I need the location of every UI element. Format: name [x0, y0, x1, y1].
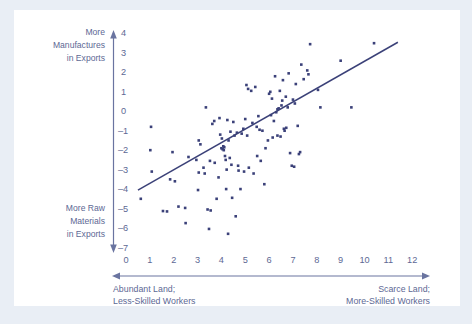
- data-point: [293, 165, 296, 168]
- data-point: [264, 147, 267, 150]
- caption-left: Abundant Land; Less-Skilled Workers: [113, 284, 196, 306]
- data-point: [228, 157, 231, 160]
- data-point: [184, 222, 187, 225]
- y-tick: 3: [121, 48, 126, 58]
- data-point: [217, 176, 220, 179]
- data-point: [240, 132, 243, 135]
- y-top-label-line2: Manufactures: [53, 40, 105, 50]
- data-point: [206, 208, 209, 211]
- data-point: [300, 63, 303, 66]
- x-tick: 4: [219, 255, 224, 265]
- y-tick: –2: [118, 145, 128, 155]
- y-axis-arrow-up: [110, 30, 117, 39]
- data-point: [256, 155, 259, 158]
- data-point: [139, 198, 142, 201]
- y-top-label-line1: More: [85, 27, 105, 37]
- data-point: [197, 171, 200, 174]
- y-tick: –1: [118, 126, 128, 136]
- data-point: [257, 115, 260, 118]
- data-point: [246, 134, 249, 137]
- direction-arrow: [112, 273, 430, 280]
- data-point: [350, 106, 353, 109]
- data-point: [255, 126, 258, 129]
- caption-left-line1: Abundant Land;: [113, 284, 175, 294]
- x-tick: 0: [123, 255, 128, 265]
- data-point: [269, 91, 272, 94]
- data-point: [224, 155, 227, 158]
- data-point: [239, 188, 242, 191]
- y-tick: –5: [118, 204, 128, 214]
- data-point: [224, 159, 227, 162]
- data-point: [285, 95, 288, 98]
- y-axis-top-label: More Manufactures in Exports: [53, 27, 105, 63]
- arrow-head-right: [422, 273, 430, 280]
- y-axis-bottom-label: More Raw Materials in Exports: [66, 203, 106, 239]
- data-point: [197, 139, 200, 142]
- y-axis-arrow-down: [110, 245, 117, 254]
- data-point: [177, 205, 180, 208]
- data-point: [280, 104, 283, 107]
- caption-left-line2: Less-Skilled Workers: [113, 296, 196, 306]
- data-point: [227, 233, 230, 236]
- data-point: [285, 127, 288, 130]
- y-bottom-label-line1: More Raw: [66, 203, 106, 213]
- caption-right-line1: Scarce Land;: [378, 284, 430, 294]
- y-tick: –7: [118, 243, 128, 253]
- x-tick: 7: [290, 255, 295, 265]
- data-point: [218, 117, 221, 120]
- data-point: [211, 123, 214, 126]
- data-point: [219, 133, 222, 136]
- data-point: [166, 210, 169, 213]
- y-tick: –4: [118, 184, 128, 194]
- data-point: [287, 72, 290, 75]
- data-point: [319, 106, 322, 109]
- chart-panel: 4 3 2 1 0 –1 –2 –3 –4 –5 –6 –7 More Manu…: [14, 10, 460, 306]
- data-point: [226, 119, 229, 122]
- y-tick: 1: [121, 87, 126, 97]
- data-point: [150, 126, 153, 129]
- data-point: [252, 172, 255, 175]
- data-point: [263, 183, 266, 186]
- data-point: [184, 207, 187, 210]
- data-point: [254, 86, 257, 89]
- data-point: [296, 125, 299, 128]
- data-point: [243, 170, 246, 173]
- x-tick: 5: [243, 255, 248, 265]
- data-point: [245, 84, 248, 87]
- data-point: [230, 163, 233, 166]
- data-point: [282, 79, 285, 82]
- data-point: [250, 90, 253, 93]
- data-point: [213, 120, 216, 123]
- data-point: [283, 129, 286, 132]
- data-point: [209, 209, 212, 212]
- data-point: [286, 106, 289, 109]
- data-point: [202, 166, 205, 169]
- data-point: [232, 121, 235, 124]
- data-point: [271, 136, 274, 139]
- y-top-label-line3: in Exports: [67, 53, 105, 63]
- y-bottom-label-line3: in Exports: [67, 229, 105, 239]
- data-point: [209, 160, 212, 163]
- data-point: [225, 188, 228, 191]
- y-tick: –6: [118, 223, 128, 233]
- data-point: [339, 59, 342, 62]
- caption-right: Scarce Land; More-Skilled Workers: [346, 284, 431, 306]
- data-point: [258, 128, 261, 131]
- x-tick: 10: [359, 255, 369, 265]
- data-point: [187, 156, 190, 159]
- x-tick: 8: [314, 255, 319, 265]
- data-point: [237, 164, 240, 167]
- data-point: [169, 178, 172, 181]
- data-point: [225, 168, 228, 171]
- data-point: [267, 139, 270, 142]
- data-point: [234, 215, 237, 218]
- data-point: [276, 134, 279, 137]
- data-point: [259, 160, 262, 163]
- y-tick: 2: [121, 67, 126, 77]
- data-point: [171, 151, 174, 154]
- x-tick: 1: [147, 255, 152, 265]
- y-tick: –3: [118, 165, 128, 175]
- caption-right-line2: More-Skilled Workers: [346, 296, 431, 306]
- data-point: [213, 162, 216, 165]
- scatter-plot: 4 3 2 1 0 –1 –2 –3 –4 –5 –6 –7 More Manu…: [14, 10, 460, 306]
